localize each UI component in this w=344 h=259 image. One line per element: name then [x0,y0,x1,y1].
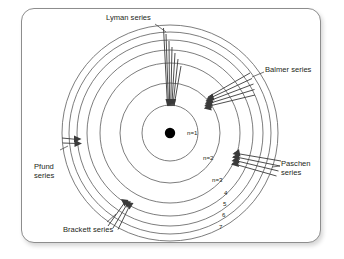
leader-lines [60,24,280,222]
orbit-label-n2: n=2 [203,155,213,162]
transition-paschen-5-3 [234,157,281,167]
arrowheads-pfund [74,136,82,148]
nucleus [165,128,175,138]
orbit-label-n7: 7 [219,224,222,231]
transition-group-paschen [233,153,282,176]
orbit-label-n6: 6 [222,212,225,219]
series-label-paschen-line2: series [281,169,323,178]
series-label-pfund-line2: series [34,172,76,181]
bohr-model-diagram [0,0,344,259]
figure-root: Lyman series Balmer series Paschen serie… [0,0,344,259]
arrowheads-paschen [231,149,241,167]
orbit-label-n3: n=3 [212,177,222,184]
orbit-label-n5: 5 [223,201,226,208]
leader-pfund [60,146,68,150]
series-label-brackett: Brackett series [63,226,113,235]
orbit-label-n4: 4 [224,190,227,197]
series-label-paschen: Paschen series [281,160,323,177]
orbit-label-n1: n=1 [187,130,197,137]
series-label-lyman: Lyman series [106,14,151,23]
transition-lyman-5-1 [171,47,172,106]
transition-paschen-4-3 [234,153,281,161]
transition-lyman-4-1 [169,41,170,106]
series-label-pfund: Pfund series [34,163,76,180]
series-label-balmer: Balmer series [265,66,311,75]
